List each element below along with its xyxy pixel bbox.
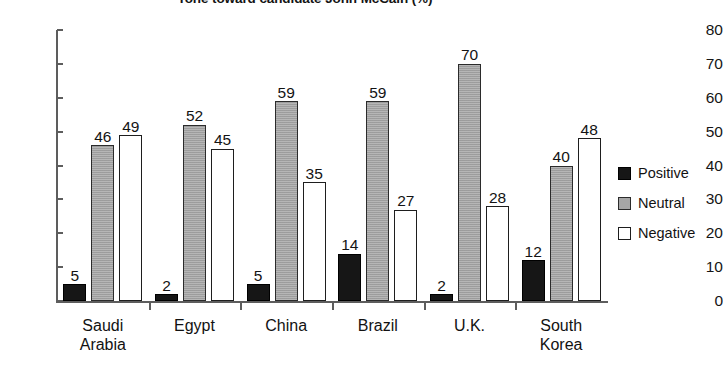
bar-negative-saudi-arabia[interactable]: 49 [119,135,142,301]
x-axis-tick-mark [515,303,517,310]
bar-value-label: 45 [214,132,231,148]
bar-group: 25245 [155,29,234,301]
bar-group: 55935 [247,29,326,301]
legend-item-positive[interactable]: Positive [618,158,695,188]
bar-value-label: 59 [278,85,295,101]
bar-neutral-u-k[interactable]: 70 [458,64,481,301]
y-axis-tick-mark [57,131,63,133]
x-axis-category-label: Egypt [149,316,241,335]
x-axis-category-label-line: China [240,316,332,335]
bar-group: 145927 [338,29,417,301]
bar-value-label: 5 [254,268,263,284]
bar-value-label: 52 [186,108,203,124]
bar-value-label: 27 [397,193,414,209]
bar-negative-egypt[interactable]: 45 [211,149,234,301]
bar-negative-brazil[interactable]: 27 [394,210,417,301]
bar-neutral-china[interactable]: 59 [275,101,298,301]
x-axis-category-label-line: Brazil [332,316,424,335]
bar-group: 124048 [522,29,601,301]
bar-value-label: 14 [341,237,358,253]
bar-positive-saudi-arabia[interactable]: 5 [63,284,86,301]
bar-positive-u-k[interactable]: 2 [430,294,453,301]
bar-neutral-saudi-arabia[interactable]: 46 [91,145,114,301]
bar-value-label: 48 [581,122,598,138]
bar-value-label: 28 [489,190,506,206]
bar-neutral-egypt[interactable]: 52 [183,125,206,301]
white-square-swatch [618,227,631,240]
bar-chart: Tone toward candidate John McCain (%) 01… [0,0,723,375]
y-axis-tick-mark [57,266,63,268]
bar-positive-china[interactable]: 5 [247,284,270,301]
x-axis-tick-mark [149,303,151,310]
y-axis-tick-label: 0 [677,293,723,309]
chart-legend: PositiveNeutralNegative [618,158,695,248]
chart-title: Tone toward candidate John McCain (%) [0,0,610,6]
bar-value-label: 12 [525,244,542,260]
y-axis-tick-mark [57,63,63,65]
bar-negative-china[interactable]: 35 [303,182,326,301]
bar-value-label: 35 [306,166,323,182]
bar-group: 54649 [63,29,142,301]
bar-value-label: 49 [122,119,139,135]
y-axis-tick-mark [57,232,63,234]
x-axis-tick-mark [240,303,242,310]
y-axis-tick-label: 50 [677,124,723,140]
x-axis-category-label: Brazil [332,316,424,335]
y-axis-tick-mark [57,97,63,99]
legend-item-neutral[interactable]: Neutral [618,188,695,218]
bar-value-label: 70 [461,47,478,63]
x-axis-tick-mark [332,303,334,310]
bar-value-label: 2 [162,278,171,294]
bar-group: 27028 [430,29,509,301]
y-axis-tick-label: 10 [677,259,723,275]
bar-neutral-brazil[interactable]: 59 [366,101,389,301]
bar-negative-u-k[interactable]: 28 [486,206,509,301]
bar-value-label: 5 [71,268,80,284]
x-axis-category-label-line: Arabia [57,335,149,354]
bar-positive-egypt[interactable]: 2 [155,294,178,301]
y-axis-tick-mark [57,300,63,302]
legend-item-negative[interactable]: Negative [618,218,695,248]
y-axis-line [56,30,58,303]
x-axis-category-label-line: South [515,316,607,335]
legend-item-label: Neutral [638,196,685,211]
x-axis-category-label-line: Korea [515,335,607,354]
bar-neutral-south-korea[interactable]: 40 [550,166,573,302]
bar-positive-brazil[interactable]: 14 [338,254,361,301]
y-axis-tick-mark [57,29,63,31]
x-axis-category-label: U.K. [424,316,516,335]
x-axis-category-label: SaudiArabia [57,316,149,354]
x-axis-category-label: China [240,316,332,335]
bar-negative-south-korea[interactable]: 48 [578,138,601,301]
bar-value-label: 40 [553,149,570,165]
y-axis-tick-mark [57,198,63,200]
legend-item-label: Negative [638,226,695,241]
y-axis-tick-label: 80 [677,22,723,38]
bar-positive-south-korea[interactable]: 12 [522,260,545,301]
x-axis-category-label-line: U.K. [424,316,516,335]
legend-item-label: Positive [638,166,689,181]
black-square-swatch [618,167,631,180]
y-axis-tick-label: 60 [677,90,723,106]
y-axis-tick-label: 70 [677,56,723,72]
x-axis-category-label: SouthKorea [515,316,607,354]
x-axis-tick-mark [424,303,426,310]
x-axis-category-label-line: Egypt [149,316,241,335]
bar-value-label: 2 [437,278,446,294]
x-axis-category-label-line: Saudi [57,316,149,335]
gray-square-swatch [618,197,631,210]
y-axis-tick-mark [57,165,63,167]
bar-value-label: 46 [94,129,111,145]
bar-value-label: 59 [369,85,386,101]
